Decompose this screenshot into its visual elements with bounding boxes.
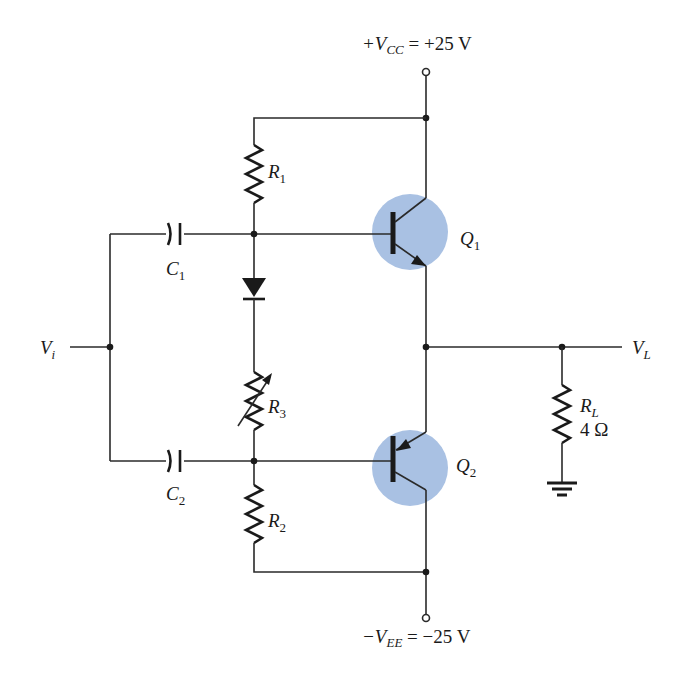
rl-resistor — [554, 385, 570, 443]
ground-icon — [547, 483, 577, 495]
r1-resistor — [246, 145, 262, 203]
r1-label: R1 — [267, 161, 286, 186]
vee-terminal — [423, 615, 430, 622]
circuit-diagram: +VCC = +25 V −VEE = −25 V R1 C1 Q1 — [0, 0, 685, 683]
rl-label: RL — [579, 395, 599, 420]
vee-node — [423, 569, 430, 576]
vi-label: Vi — [40, 337, 56, 362]
c2-label: C2 — [166, 483, 185, 508]
output-node — [423, 344, 430, 351]
q2-base-node — [251, 458, 258, 465]
vl-label: VL — [632, 337, 651, 362]
c2-capacitor — [168, 450, 180, 472]
r2-label: R2 — [267, 510, 286, 535]
c1-label: C1 — [166, 258, 185, 283]
q1-base-node — [251, 231, 258, 238]
rl-value: 4 Ω — [580, 419, 608, 440]
d1-diode — [242, 278, 266, 299]
vcc-label: +VCC = +25 V — [362, 33, 472, 57]
vcc-terminal — [423, 69, 430, 76]
q1-highlight — [372, 194, 448, 270]
q2-label: Q2 — [456, 455, 476, 480]
q1-label: Q1 — [460, 228, 480, 253]
r2-resistor — [246, 485, 262, 543]
vee-label: −VEE = −25 V — [362, 626, 471, 650]
r3-label: R3 — [267, 396, 286, 421]
c1-capacitor — [168, 223, 180, 245]
vi-node — [107, 344, 114, 351]
